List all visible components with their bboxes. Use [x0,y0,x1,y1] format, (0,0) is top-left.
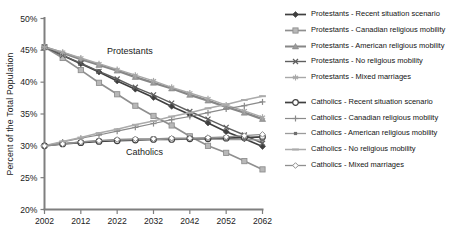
annotation-label: Catholics [126,147,164,157]
legend-label: Protestants - Canadian religious mobilit… [311,25,451,35]
legend-item: Catholics - American religious mobility [285,128,451,141]
dot-marker-icon [285,129,306,141]
legend-item: Protestants - Recent situation scenario [285,9,451,22]
series-markers-3 [42,45,265,146]
legend-label: Catholics - Canadian religious mobility [311,113,451,123]
legend-item: Protestants - Canadian religious mobilit… [285,25,451,38]
x-tick-label: 2052 [217,216,236,226]
filled-diamond-marker-icon [285,10,306,22]
y-axis-title: Percent of the Total Population [5,52,15,175]
x-tick-label: 2042 [180,216,199,226]
legend-label: Protestants - Recent situation scenario [311,9,451,19]
legend-item: Protestants - American religious mobilit… [285,41,451,54]
x-tick-label: 2032 [144,216,163,226]
legend-label: Catholics - Mixed marriages [311,160,451,170]
x-marker-icon [285,57,306,69]
legend-item: Protestants - Mixed marriages [285,72,451,85]
annotation-label: Protestants [107,46,153,56]
y-tick-label: 35% [20,109,38,119]
open-diamond-marker-icon [285,161,306,173]
legend-item: Catholics - No religious mobility [285,144,451,157]
y-tick-label: 45% [20,45,38,55]
x-tick-label: 2002 [35,216,54,226]
chart-canvas: 20%25%30%35%40%45%50%2002201220222032204… [0,0,280,237]
legend-item: Catholics - Recent situation scenario [285,97,451,110]
open-circle-marker-icon [285,98,306,110]
legend-label: Catholics - American religious mobility [311,128,451,138]
y-tick-label: 25% [20,173,38,183]
legend-label: Catholics - No religious mobility [311,144,451,154]
y-tick-label: 20% [20,205,38,215]
asterisk-marker-icon [285,73,306,85]
legend-label: Protestants - Mixed marriages [311,72,451,82]
legend-label: Protestants - No religious mobility [311,56,451,66]
filled-triangle-marker-icon [285,42,306,54]
y-tick-label: 30% [20,141,38,151]
legend-item: Catholics - Canadian religious mobility [285,113,451,126]
dash-marker-icon [285,145,306,157]
x-tick-label: 2062 [253,216,272,226]
y-tick-label: 50% [20,14,38,24]
legend: Protestants - Recent situation scenarioP… [285,9,451,173]
plus-marker-icon [285,114,306,126]
x-tick-label: 2022 [108,216,127,226]
x-tick-label: 2012 [71,216,90,226]
legend-item: Protestants - No religious mobility [285,56,451,69]
legend-item: Catholics - Mixed marriages [285,160,451,173]
population-projection-figure: 20%25%30%35%40%45%50%2002201220222032204… [0,0,452,237]
y-tick-label: 40% [20,77,38,87]
filled-square-marker-icon [285,26,306,38]
legend-label: Protestants - American religious mobilit… [311,41,451,51]
legend-label: Catholics - Recent situation scenario [311,97,451,107]
